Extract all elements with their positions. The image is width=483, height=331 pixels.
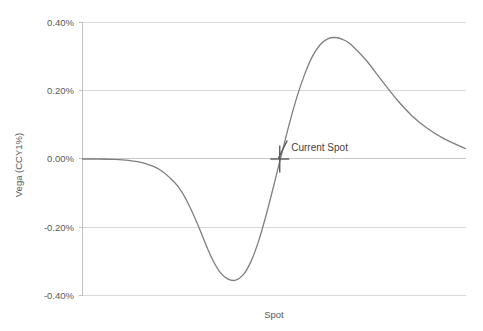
x-axis-title: Spot	[264, 309, 284, 320]
y-tick-label-4: -0.40%	[44, 290, 75, 301]
y-tick-labels: 0.40% 0.20% 0.00% -0.20% -0.40%	[44, 17, 75, 301]
y-tick-label-3: -0.20%	[44, 222, 75, 233]
current-spot-label: Current Spot	[291, 142, 348, 153]
y-axis-title: Vega (CCY1%)	[13, 133, 24, 197]
y-tick-label-1: 0.20%	[47, 85, 74, 96]
y-tick-label-2: 0.00%	[47, 153, 74, 164]
current-spot-annotation: Current Spot	[270, 141, 348, 173]
vega-spot-chart: 0.40% 0.20% 0.00% -0.20% -0.40% Vega (CC…	[0, 0, 483, 331]
y-tick-label-0: 0.40%	[47, 17, 74, 28]
chart-canvas: 0.40% 0.20% 0.00% -0.20% -0.40% Vega (CC…	[0, 0, 483, 331]
